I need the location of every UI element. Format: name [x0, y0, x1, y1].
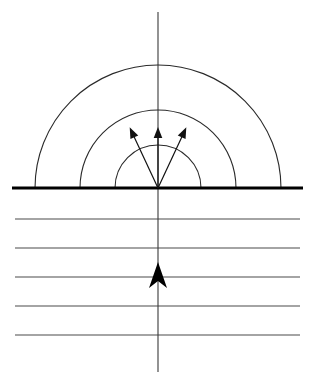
diagram-background [0, 0, 314, 384]
wavefront-ray-diagram [0, 0, 314, 384]
diagram-canvas [0, 0, 314, 384]
